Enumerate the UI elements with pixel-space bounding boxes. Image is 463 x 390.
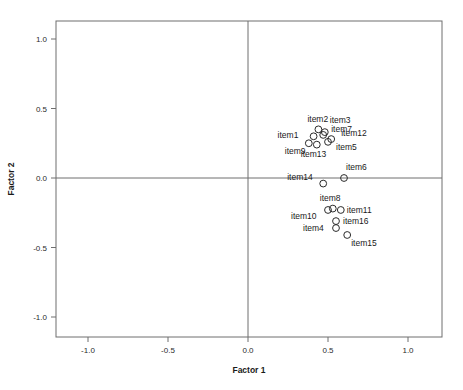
- y-axis-title: Factor 2: [6, 162, 16, 195]
- data-point-marker: [315, 126, 322, 133]
- data-point-label: item13: [301, 149, 327, 159]
- y-tick-label: 0.0: [36, 174, 48, 183]
- y-tick-label: 0.5: [36, 105, 48, 114]
- data-point-marker: [344, 232, 351, 239]
- x-tick-label: 0.5: [322, 346, 334, 355]
- data-point-label: item10: [291, 211, 317, 221]
- data-point-label: item16: [343, 216, 369, 226]
- y-tick-label: 1.0: [36, 35, 48, 44]
- data-point-marker: [320, 180, 327, 187]
- data-point-label: item8: [320, 193, 341, 203]
- data-point-marker: [325, 207, 332, 214]
- data-point-label: item2: [307, 114, 328, 124]
- x-tick-label: 0.0: [242, 346, 254, 355]
- data-point-label: item15: [351, 238, 377, 248]
- x-axis-title: Factor 1: [232, 365, 265, 375]
- x-tick-label: -0.5: [161, 346, 175, 355]
- x-tick-label: 1.0: [402, 346, 414, 355]
- data-point-marker: [313, 141, 320, 148]
- data-point-label: item6: [346, 162, 367, 172]
- data-point-marker: [329, 205, 336, 212]
- data-point-marker: [333, 218, 340, 225]
- data-point-label: item12: [341, 128, 367, 138]
- data-point-label: item4: [303, 223, 324, 233]
- data-point-marker: [333, 225, 340, 232]
- data-point-label: item14: [287, 172, 313, 182]
- data-point-label: item11: [347, 205, 372, 215]
- plot-frame: [56, 21, 442, 337]
- x-tick-label: -1.0: [81, 346, 95, 355]
- y-tick-label: -0.5: [33, 244, 47, 253]
- plot-canvas: -1.0-0.50.00.51.0-1.0-0.50.00.51.0Factor…: [0, 0, 463, 390]
- y-tick-label: -1.0: [33, 313, 47, 322]
- data-point-marker: [305, 140, 312, 147]
- data-point-label: item1: [278, 130, 299, 140]
- factor-loading-scatter-plot: -1.0-0.50.00.51.0-1.0-0.50.00.51.0Factor…: [0, 0, 463, 390]
- data-point-label: item5: [336, 142, 357, 152]
- data-point-marker: [337, 207, 344, 214]
- data-point-marker: [310, 133, 317, 140]
